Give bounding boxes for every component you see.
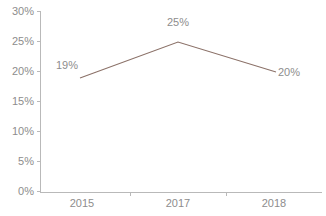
y-tick-label: 5% (18, 155, 34, 167)
x-tick-label-2017: 2017 (166, 197, 190, 209)
y-axis-ticks (37, 12, 40, 192)
data-label-2017: 25% (167, 16, 189, 28)
y-tick-label: 25% (12, 35, 34, 47)
data-label-2015: 19% (56, 59, 78, 71)
y-tick-label: 0% (18, 185, 34, 197)
line-chart: 30% 25% 20% 15% 10% 5% 0% 2015 2017 2018… (0, 0, 326, 216)
y-tick-label: 20% (12, 65, 34, 77)
x-tick-label-2018: 2018 (262, 197, 286, 209)
y-tick-label: 15% (12, 95, 34, 107)
series-line (80, 42, 276, 78)
y-tick-label: 30% (12, 5, 34, 17)
chart-canvas: 30% 25% 20% 15% 10% 5% 0% 2015 2017 2018… (0, 0, 326, 216)
x-tick-label-2015: 2015 (70, 197, 94, 209)
y-axis-labels: 30% 25% 20% 15% 10% 5% 0% (12, 5, 34, 197)
data-label-2018: 20% (278, 66, 300, 78)
x-axis-labels: 2015 2017 2018 (70, 197, 286, 209)
y-tick-label: 10% (12, 125, 34, 137)
